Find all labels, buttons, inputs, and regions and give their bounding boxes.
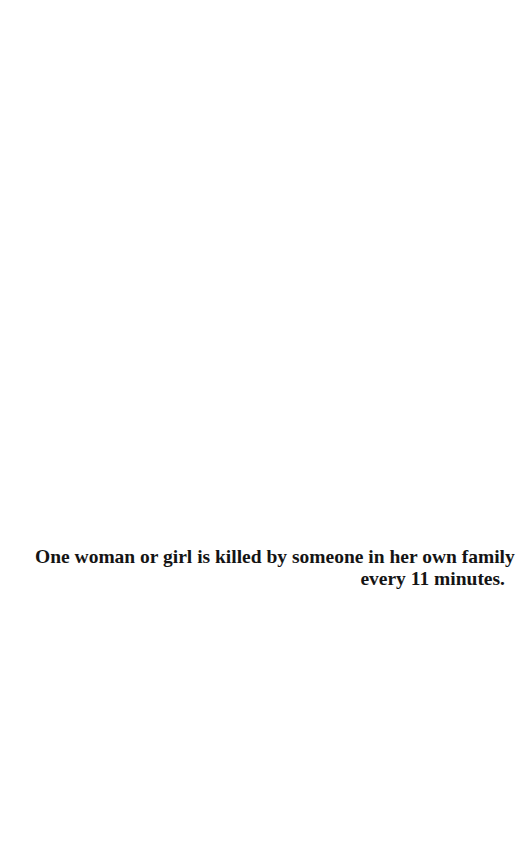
quote-line-2: every 11 minutes. xyxy=(35,568,505,590)
document-page: One woman or girl is killed by someone i… xyxy=(0,0,518,865)
quote-line-1: One woman or girl is killed by someone i… xyxy=(35,546,505,568)
statistic-quote: One woman or girl is killed by someone i… xyxy=(35,546,505,590)
